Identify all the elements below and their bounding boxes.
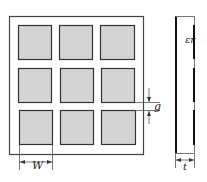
patch [20, 111, 53, 145]
patch [61, 69, 94, 103]
patch [102, 111, 136, 145]
patch [19, 69, 52, 103]
patch [102, 69, 135, 103]
patch-array-diagram: W g εr t [0, 0, 207, 182]
gap-label: g [154, 100, 161, 113]
thickness-label: t [183, 161, 188, 172]
patch-grid [19, 26, 136, 145]
permittivity-label: εr [185, 34, 196, 45]
patch [101, 26, 135, 60]
patch [61, 111, 94, 145]
patch [19, 26, 52, 60]
width-label: W [32, 159, 45, 172]
patch [60, 26, 93, 60]
